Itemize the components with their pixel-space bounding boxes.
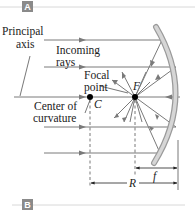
focal-point (132, 94, 138, 100)
arrow-icon (165, 95, 172, 100)
arrow-icon (79, 95, 86, 100)
arrow-icon (79, 38, 86, 43)
incoming-rays (14, 40, 180, 153)
center-of-curvature-label-2: curvature (33, 112, 76, 124)
c-label: C (94, 98, 102, 110)
center-of-curvature-label: Center of (34, 100, 77, 112)
focal-point-label-2: point (84, 81, 108, 94)
panel-a-header: A (0, 1, 195, 12)
arrow-icon (79, 151, 86, 156)
center-of-curvature-point (87, 94, 93, 100)
panel-b-label: B (24, 200, 31, 210)
focal-point-label: Focal (84, 69, 110, 81)
r-length-label: R (128, 177, 136, 189)
concave-mirror (154, 27, 176, 163)
panel-a-label: A (24, 2, 31, 12)
concave-mirror-diagram: A (0, 0, 195, 212)
incoming-rays-label-2: rays (56, 56, 76, 69)
panel-b-header: B (12, 199, 185, 210)
principal-axis-label: Principal (2, 25, 44, 38)
f-point-label: F (132, 80, 141, 92)
center-pointer (85, 100, 90, 113)
principal-axis-label-2: axis (16, 38, 35, 50)
principal-axis-pointer (20, 56, 30, 96)
arrow-icon (79, 125, 86, 130)
f-length-label: f (153, 170, 158, 183)
